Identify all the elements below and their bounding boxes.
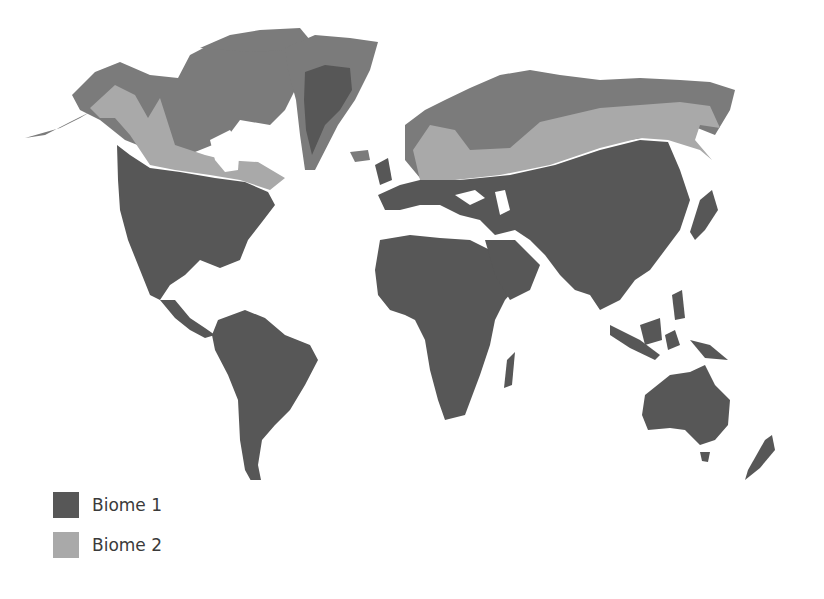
biome-2-swatch xyxy=(53,532,79,558)
southeast-asia xyxy=(610,290,728,360)
iceland xyxy=(350,150,370,162)
south-america xyxy=(212,310,318,480)
greenland xyxy=(285,35,378,170)
legend-label: Biome 2 xyxy=(92,535,162,555)
legend: Biome 1 Biome 2 xyxy=(53,490,162,570)
world-map xyxy=(0,0,824,480)
north-america xyxy=(25,28,310,338)
biome-1-swatch xyxy=(53,492,79,518)
legend-item-biome-1: Biome 1 xyxy=(53,490,162,520)
legend-item-biome-2: Biome 2 xyxy=(53,530,162,560)
new-zealand xyxy=(745,435,775,480)
tasmania xyxy=(700,452,710,462)
australia xyxy=(642,365,730,445)
madagascar xyxy=(504,352,515,388)
legend-label: Biome 1 xyxy=(92,495,162,515)
